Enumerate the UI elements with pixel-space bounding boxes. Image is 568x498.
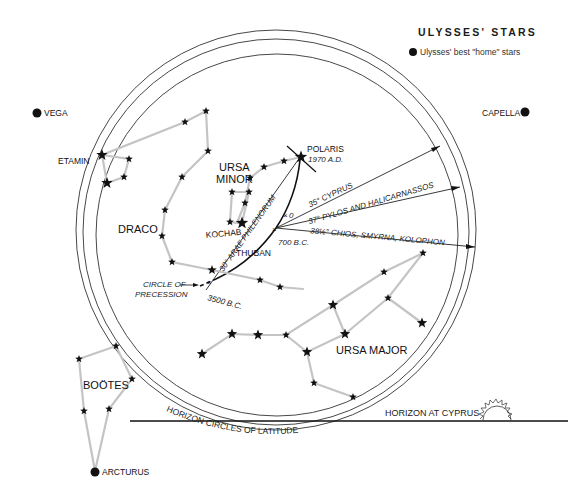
legend-marker-icon	[409, 48, 417, 56]
ulysses-stars-diagram: ULYSSES' STARS Ulysses' best "home" star…	[0, 0, 568, 498]
bootes-label: BOÖTES	[83, 379, 129, 391]
precession-label-line1: CIRCLE OF	[143, 280, 187, 289]
arcturus-marker-icon	[91, 468, 100, 477]
star-icon	[280, 157, 288, 164]
x-mark-3500: ×	[207, 278, 212, 287]
draco-label: DRACO	[118, 223, 158, 235]
capella-label: CAPELLA	[482, 108, 521, 118]
ray-label-35: 35° CYPRUS	[307, 181, 355, 210]
ray-label-37: 37° PYLOS AND HALICARNASSOS	[307, 180, 435, 226]
etamin-label: ETAMIN	[58, 156, 89, 166]
polaris-date: 1970 A.D.	[308, 155, 343, 164]
rising-sun-icon	[479, 399, 512, 420]
polaris-label: POLARIS	[307, 144, 344, 154]
capella-marker-icon	[521, 108, 530, 117]
zero-mark: 0	[289, 211, 294, 220]
ursa-major-lines-2	[307, 352, 353, 397]
x-mark-700: ×	[272, 225, 277, 234]
stars	[75, 107, 427, 414]
arcturus-label: ARCTURUS	[102, 467, 150, 477]
ray-label-38: 38½° CHIOS, SMYRNA, KOLOPHON	[310, 226, 445, 247]
star-icon	[207, 265, 217, 274]
diagram-title: ULYSSES' STARS	[418, 26, 537, 38]
vega-marker-icon	[33, 109, 42, 118]
arrowhead-icon	[451, 186, 460, 191]
date-3500-bc: 3500 B.C.	[206, 293, 243, 311]
ursa-minor-label-line2: MINOR	[216, 173, 253, 185]
thuban-label: THUBAN	[236, 248, 271, 258]
arrowhead-icon	[193, 283, 199, 287]
svg-text:38½° CHIOS, SMYRNA, KOLOPHON: 38½° CHIOS, SMYRNA, KOLOPHON	[310, 226, 445, 247]
bootes-lines	[79, 346, 132, 471]
horizon-label: HORIZON AT CYPRUS	[385, 408, 479, 418]
ursa-major-label: URSA MAJOR	[336, 344, 408, 356]
star-icon	[120, 173, 128, 180]
precession-label-line2: PRECESSION	[135, 290, 188, 299]
legend-label: Ulysses' best "home" stars	[420, 47, 520, 57]
star-icon	[226, 218, 234, 225]
constellation-lines	[79, 111, 423, 471]
star-icon	[197, 349, 207, 359]
x-mark-0: ×	[283, 211, 288, 220]
svg-text:35° CYPRUS: 35° CYPRUS	[307, 181, 355, 210]
ursa-major-lines-4	[388, 298, 422, 323]
star-icon	[295, 151, 307, 163]
vega-label: VEGA	[44, 108, 68, 118]
star-icon	[253, 330, 263, 340]
ursa-minor-label-line1: URSA	[219, 161, 250, 173]
star-icon	[276, 283, 284, 290]
ursa-major-lines	[202, 305, 345, 354]
kochab-label: KOCHAB	[205, 227, 242, 240]
ursa-major-lines-3	[333, 253, 423, 334]
star-icon	[256, 276, 264, 283]
star-icon	[168, 258, 176, 265]
date-700-bc: 700 B.C.	[278, 238, 309, 247]
svg-text:37° PYLOS AND HALICARNASSOS: 37° PYLOS AND HALICARNASSOS	[307, 180, 435, 226]
